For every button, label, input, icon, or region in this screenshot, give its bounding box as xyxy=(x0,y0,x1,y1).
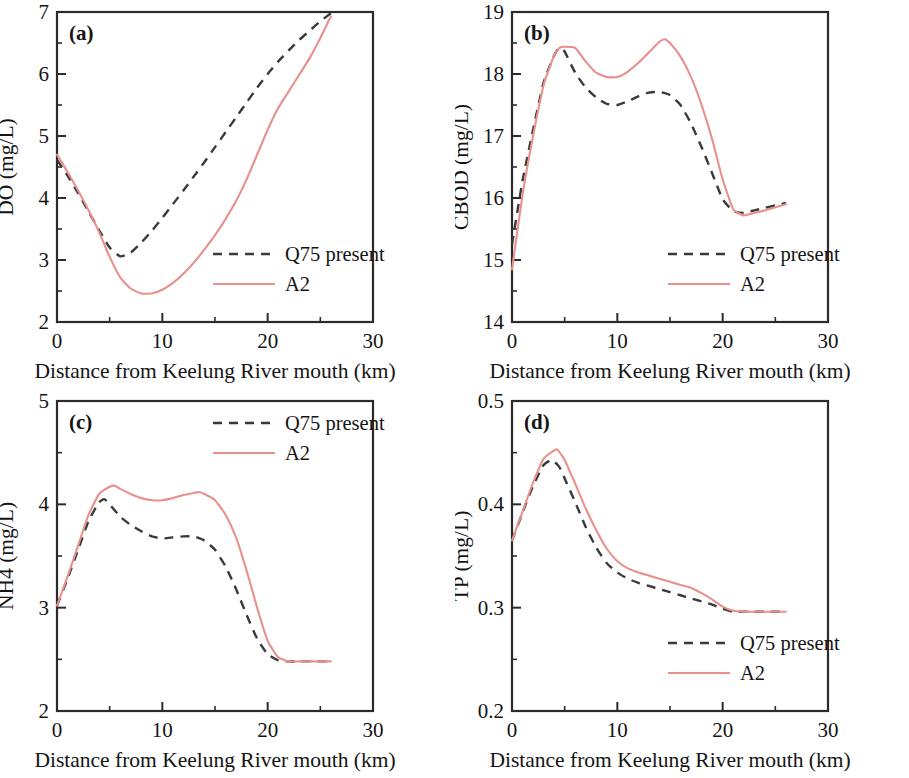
x-axis-title: Distance from Keelung River mouth (km) xyxy=(489,359,850,383)
x-tick-label: 20 xyxy=(712,718,733,742)
chart-svg: 0102030234567(a)Q75 presentA2Distance fr… xyxy=(0,0,454,389)
x-tick-label: 10 xyxy=(152,329,173,353)
y-axis-title: NH4 (mg/L) xyxy=(0,502,18,610)
series-group xyxy=(512,449,786,612)
panel-tag: (b) xyxy=(524,21,550,45)
chart-panel-d: 01020300.20.30.40.5(d)Q75 presentA2Dista… xyxy=(455,389,909,778)
y-tick-label: 5 xyxy=(39,124,50,148)
y-axis-title: TP (mg/L) xyxy=(455,511,473,602)
y-axis-title: CBOD (mg/L) xyxy=(455,104,473,230)
series-line-a2 xyxy=(57,486,331,662)
y-axis-title: DO (mg/L) xyxy=(0,118,18,215)
panel-tag: (a) xyxy=(69,21,94,45)
axis-ticks: 0102030141516171819 xyxy=(483,0,839,353)
x-tick-label: 0 xyxy=(507,718,518,742)
x-tick-label: 0 xyxy=(507,329,518,353)
y-tick-label: 15 xyxy=(483,248,504,272)
plot-frame xyxy=(57,401,373,711)
legend: Q75 presentA2 xyxy=(213,243,385,295)
y-tick-label: 18 xyxy=(483,62,504,86)
y-tick-label: 5 xyxy=(39,389,50,413)
series-line-a2 xyxy=(512,449,786,612)
series-group xyxy=(512,39,786,269)
y-tick-label: 4 xyxy=(39,186,50,210)
x-tick-label: 20 xyxy=(257,718,278,742)
x-tick-label: 10 xyxy=(607,718,628,742)
y-tick-label: 3 xyxy=(39,248,50,272)
x-tick-label: 30 xyxy=(818,329,839,353)
legend-label-a2: A2 xyxy=(740,662,765,684)
chart-svg: 01020300.20.30.40.5(d)Q75 presentA2Dista… xyxy=(455,389,909,778)
axis-ticks: 0102030234567 xyxy=(39,0,384,353)
x-axis-title: Distance from Keelung River mouth (km) xyxy=(34,748,395,772)
x-axis-title: Distance from Keelung River mouth (km) xyxy=(489,748,850,772)
y-tick-label: 0.4 xyxy=(478,492,505,516)
legend: Q75 presentA2 xyxy=(213,412,385,464)
series-line-q75-present xyxy=(57,13,331,256)
x-tick-label: 10 xyxy=(152,718,173,742)
y-tick-label: 7 xyxy=(39,0,50,24)
legend-label-q75-present: Q75 present xyxy=(740,632,840,655)
y-tick-label: 0.2 xyxy=(478,699,504,723)
plot-frame xyxy=(57,12,373,322)
series-group xyxy=(57,486,331,662)
figure-root: 0102030234567(a)Q75 presentA2Distance fr… xyxy=(0,0,909,778)
legend-label-a2: A2 xyxy=(740,273,765,295)
legend-label-q75-present: Q75 present xyxy=(285,412,385,435)
x-axis-title: Distance from Keelung River mouth (km) xyxy=(34,359,395,383)
y-tick-label: 2 xyxy=(39,699,50,723)
y-tick-label: 2 xyxy=(39,310,50,334)
legend-label-a2: A2 xyxy=(285,442,310,464)
panel-tag: (d) xyxy=(524,410,550,434)
chart-panel-c: 01020302345(c)Q75 presentA2Distance from… xyxy=(0,389,454,778)
chart-panel-b: 0102030141516171819(b)Q75 presentA2Dista… xyxy=(455,0,909,389)
legend: Q75 presentA2 xyxy=(668,632,840,684)
y-tick-label: 14 xyxy=(483,310,505,334)
series-line-a2 xyxy=(512,39,786,269)
y-tick-label: 3 xyxy=(39,596,50,620)
axis-ticks: 01020302345 xyxy=(39,389,384,742)
x-tick-label: 30 xyxy=(818,718,839,742)
series-line-q75-present xyxy=(512,460,786,612)
legend-label-a2: A2 xyxy=(285,273,310,295)
plot-frame xyxy=(512,401,828,711)
axis-ticks: 01020300.20.30.40.5 xyxy=(478,389,839,742)
y-tick-label: 0.3 xyxy=(478,596,504,620)
y-tick-label: 19 xyxy=(483,0,504,24)
x-tick-label: 10 xyxy=(607,329,628,353)
chart-panel-a: 0102030234567(a)Q75 presentA2Distance fr… xyxy=(0,0,454,389)
x-tick-label: 30 xyxy=(363,329,384,353)
x-tick-label: 20 xyxy=(257,329,278,353)
chart-svg: 0102030141516171819(b)Q75 presentA2Dista… xyxy=(455,0,909,389)
chart-svg: 01020302345(c)Q75 presentA2Distance from… xyxy=(0,389,454,778)
series-line-q75-present xyxy=(57,499,331,661)
x-tick-label: 0 xyxy=(52,718,63,742)
legend-label-q75-present: Q75 present xyxy=(740,243,840,266)
x-tick-label: 0 xyxy=(52,329,63,353)
y-tick-label: 6 xyxy=(39,62,50,86)
x-tick-label: 20 xyxy=(712,329,733,353)
y-tick-label: 17 xyxy=(483,124,504,148)
legend-label-q75-present: Q75 present xyxy=(285,243,385,266)
y-tick-label: 16 xyxy=(483,186,504,210)
x-tick-label: 30 xyxy=(363,718,384,742)
panel-tag: (c) xyxy=(69,410,92,434)
legend: Q75 presentA2 xyxy=(668,243,840,295)
y-tick-label: 4 xyxy=(39,492,50,516)
plot-frame xyxy=(512,12,828,322)
y-tick-label: 0.5 xyxy=(478,389,504,413)
